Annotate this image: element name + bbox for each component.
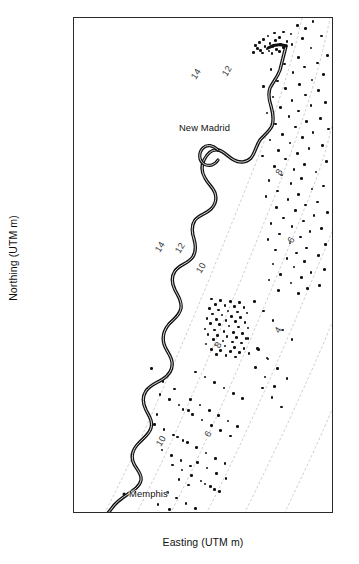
y-tick-mark-right — [332, 121, 333, 122]
x-tick-mark-top — [141, 17, 142, 18]
y-tick-mark-right — [332, 334, 333, 335]
x-tick-mark-top — [225, 17, 226, 18]
x-tick-mark — [183, 512, 184, 513]
y-tick-mark-right — [332, 292, 333, 293]
y-axis-title: Northing (UTM m) — [7, 183, 19, 333]
x-tick-mark — [99, 512, 100, 513]
axis-ticks: 3880000390000039200003940000396000039800… — [74, 18, 332, 512]
y-tick-mark — [73, 463, 74, 464]
plot-area: 14121412108684106 New Madrid Memphis 388… — [73, 17, 333, 513]
y-tick-mark — [73, 292, 74, 293]
y-tick-mark-right — [332, 35, 333, 36]
y-tick-mark — [73, 505, 74, 506]
y-tick-mark-right — [332, 377, 333, 378]
y-tick-mark — [73, 249, 74, 250]
y-tick-mark — [73, 334, 74, 335]
y-tick-mark-right — [332, 78, 333, 79]
y-tick-mark — [73, 121, 74, 122]
x-axis-title: Easting (UTM m) — [73, 536, 333, 548]
y-tick-mark — [73, 377, 74, 378]
x-tick-mark — [267, 512, 268, 513]
y-tick-mark — [73, 420, 74, 421]
y-tick-mark-right — [332, 163, 333, 164]
seismicity-map-figure: Northing (UTM m) Easting (UTM m) — [0, 0, 359, 564]
y-tick-mark — [73, 78, 74, 79]
y-tick-mark-right — [332, 249, 333, 250]
y-tick-mark-right — [332, 505, 333, 506]
y-tick-mark — [73, 206, 74, 207]
x-tick-mark-top — [99, 17, 100, 18]
y-tick-mark-right — [332, 463, 333, 464]
y-tick-mark-right — [332, 206, 333, 207]
y-tick-mark-right — [332, 420, 333, 421]
x-tick-mark-top — [267, 17, 268, 18]
x-tick-mark — [309, 512, 310, 513]
y-tick-mark — [73, 35, 74, 36]
x-tick-mark-top — [309, 17, 310, 18]
x-tick-mark — [141, 512, 142, 513]
x-tick-mark — [225, 512, 226, 513]
y-tick-mark — [73, 163, 74, 164]
x-tick-mark-top — [183, 17, 184, 18]
